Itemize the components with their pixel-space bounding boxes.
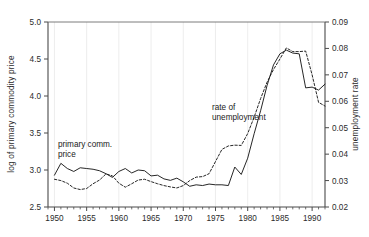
- chart-container: 195019551960196519701975198019851990 2.5…: [0, 0, 369, 237]
- x-tick-label: 1975: [206, 214, 225, 223]
- x-tick-label: 1985: [271, 214, 290, 223]
- x-tick-label: 1955: [78, 214, 97, 223]
- y2-tick-label: 0.06: [332, 97, 348, 106]
- y-tick-label: 4.5: [30, 55, 42, 64]
- right-axis-title: unemployment rate: [351, 77, 360, 151]
- annotation-commodity-line-1: primary comm.: [58, 140, 112, 149]
- x-tick-label: 1960: [110, 214, 129, 223]
- y2-tick-label: 0.07: [332, 71, 348, 80]
- y-tick-label: 5.0: [30, 18, 42, 27]
- x-tick-label: 1990: [303, 214, 322, 223]
- y-tick-label: 3.0: [30, 166, 42, 175]
- annotation-commodity-line-2: price: [58, 150, 76, 159]
- left-axis-title: log of primary commodity price: [7, 55, 16, 173]
- x-tick-label: 1970: [174, 214, 193, 223]
- commodity-price-unemployment-chart: 195019551960196519701975198019851990 2.5…: [0, 0, 369, 237]
- annotation-unemployment-line-2: unemployment: [212, 113, 266, 122]
- y2-tick-label: 0.02: [332, 203, 348, 212]
- x-tick-label: 1965: [142, 214, 161, 223]
- y2-tick-label: 0.04: [332, 150, 348, 159]
- x-axis-tick-labels: 195019551960196519701975198019851990: [45, 214, 321, 223]
- y-tick-label: 2.5: [30, 203, 42, 212]
- x-tick-label: 1980: [239, 214, 258, 223]
- y2-tick-label: 0.05: [332, 124, 348, 133]
- x-tick-label: 1950: [45, 214, 64, 223]
- chart-background: [0, 0, 369, 237]
- y-tick-label: 4.0: [30, 92, 42, 101]
- annotation-unemployment-line-1: rate of: [212, 103, 236, 112]
- y2-tick-label: 0.09: [332, 18, 348, 27]
- y2-tick-label: 0.03: [332, 177, 348, 186]
- y-tick-label: 3.5: [30, 129, 42, 138]
- y2-tick-label: 0.08: [332, 44, 348, 53]
